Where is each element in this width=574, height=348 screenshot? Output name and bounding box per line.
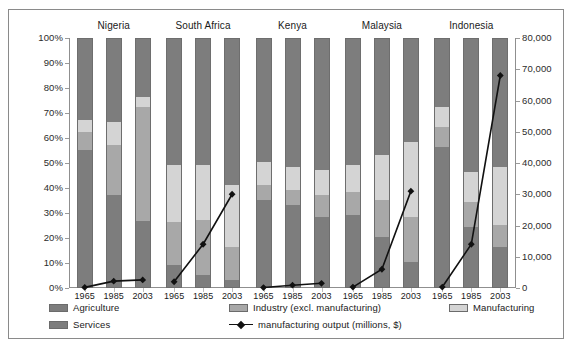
y-tick-label-right: 80,000 [522, 33, 572, 43]
country-title: Indonesia [427, 20, 516, 31]
legend-swatch-services-icon [49, 321, 68, 329]
y-tick-right [516, 69, 520, 70]
y-tick-label-right: 20,000 [522, 221, 572, 231]
y-tick-left [65, 288, 69, 289]
x-tick [471, 288, 472, 292]
line-marker [497, 72, 504, 79]
legend-swatch-manufacturing-icon [449, 304, 468, 312]
y-tick-label-right: 10,000 [522, 252, 572, 262]
y-tick-right [516, 288, 520, 289]
year-label: 2003 [394, 291, 428, 301]
y-tick-label-left: 0% [17, 283, 63, 293]
y-tick-right [516, 38, 520, 39]
line-segment [353, 191, 411, 287]
year-label: 2003 [215, 291, 249, 301]
y-tick-label-left: 80% [17, 83, 63, 93]
line-marker [110, 278, 117, 285]
y-tick-label-left: 40% [17, 183, 63, 193]
x-tick [411, 288, 412, 292]
y-tick-right [516, 194, 520, 195]
y-tick-label-left: 60% [17, 133, 63, 143]
chart-legend: AgricultureIndustry (excl. manufacturing… [29, 302, 549, 336]
y-tick-label-right: 30,000 [522, 189, 572, 199]
country-title: Nigeria [69, 20, 158, 31]
legend-label: Manufacturing [473, 302, 535, 313]
line-marker [229, 191, 236, 198]
line-segment [174, 194, 232, 282]
manufacturing-output-line [69, 38, 516, 288]
y-tick-label-left: 20% [17, 233, 63, 243]
x-tick [232, 288, 233, 292]
y-tick-label-right: 60,000 [522, 96, 572, 106]
plot-area: 0%10%20%30%40%50%60%70%80%90%100% 010,00… [69, 38, 516, 288]
country-title: Kenya [248, 20, 337, 31]
legend-item[interactable]: Industry (excl. manufacturing) [229, 302, 381, 313]
year-label: 2003 [126, 291, 160, 301]
line-marker [318, 280, 325, 287]
y-tick-right [516, 257, 520, 258]
line-marker [408, 188, 415, 195]
x-tick [203, 288, 204, 292]
legend-item[interactable]: Services [49, 319, 110, 330]
country-title: South Africa [158, 20, 247, 31]
y-tick-label-left: 50% [17, 158, 63, 168]
legend-item[interactable]: manufacturing output (millions, $) [229, 319, 402, 330]
year-label: 2003 [483, 291, 517, 301]
legend-label: Services [73, 319, 110, 330]
legend-label: Industry (excl. manufacturing) [253, 302, 381, 313]
legend-label: manufacturing output (millions, $) [258, 319, 402, 330]
legend-line-marker-icon [229, 321, 253, 329]
x-tick [293, 288, 294, 292]
y-tick-label-right: 70,000 [522, 64, 572, 74]
x-tick [382, 288, 383, 292]
legend-label: Agriculture [73, 302, 120, 313]
y-tick-label-right: 40,000 [522, 158, 572, 168]
y-tick-label-left: 100% [17, 33, 63, 43]
y-tick-label-left: 90% [17, 58, 63, 68]
y-tick-label-left: 70% [17, 108, 63, 118]
x-tick [174, 288, 175, 292]
line-segment [442, 76, 500, 288]
cut-off-caption [0, 0, 574, 6]
x-tick [143, 288, 144, 292]
line-marker [289, 282, 296, 289]
legend-item[interactable]: Agriculture [49, 302, 120, 313]
line-marker [81, 284, 88, 291]
year-label: 2003 [305, 291, 339, 301]
chart-screenshot: 0%10%20%30%40%50%60%70%80%90%100% 010,00… [0, 0, 574, 348]
y-tick-label-right: 50,000 [522, 127, 572, 137]
y-tick-right [516, 163, 520, 164]
x-tick [114, 288, 115, 292]
country-title: Malaysia [337, 20, 426, 31]
y-tick-label-left: 10% [17, 258, 63, 268]
x-tick [500, 288, 501, 292]
x-tick [322, 288, 323, 292]
y-tick-label-right: 0 [522, 283, 572, 293]
y-tick-label-left: 30% [17, 208, 63, 218]
legend-swatch-agriculture-icon [49, 304, 68, 312]
y-tick-right [516, 226, 520, 227]
line-marker [139, 276, 146, 283]
line-marker [260, 284, 267, 291]
chart-frame: 0%10%20%30%40%50%60%70%80%90%100% 010,00… [8, 9, 564, 339]
y-tick-right [516, 132, 520, 133]
y-tick-right [516, 101, 520, 102]
legend-item[interactable]: Manufacturing [449, 302, 535, 313]
legend-swatch-industry-icon [229, 304, 248, 312]
